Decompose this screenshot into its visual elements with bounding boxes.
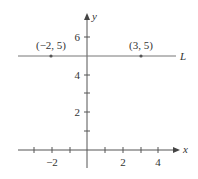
line-label: L (179, 50, 186, 62)
y-tick-label: 6 (75, 31, 81, 43)
x-tick-label: 4 (155, 156, 161, 168)
line-L: L (18, 50, 186, 62)
y-tick-label: 4 (75, 69, 81, 81)
y-tick-label: 2 (75, 106, 81, 118)
y-axis: 2 4 6 y (75, 10, 98, 168)
x-axis-arrow-icon (173, 147, 180, 153)
point-3-5: (3, 5) (129, 39, 153, 58)
x-axis: −2 2 4 x (18, 143, 188, 168)
point-label: (3, 5) (129, 39, 153, 52)
y-axis-arrow-icon (84, 13, 90, 20)
coordinate-plot: −2 2 4 x 2 4 6 y L (−2, 5) (3, 5) (0, 0, 198, 179)
y-axis-label: y (91, 10, 97, 22)
point-neg2-5: (−2, 5) (36, 39, 66, 58)
x-tick-label: 2 (120, 156, 126, 168)
x-axis-label: x (182, 143, 188, 155)
x-tick-label: −2 (46, 156, 58, 168)
point-label: (−2, 5) (36, 39, 66, 52)
